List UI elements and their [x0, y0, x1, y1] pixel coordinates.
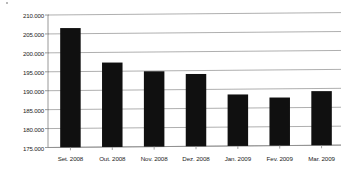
x-axis-label: Set. 2008 [50, 155, 92, 163]
y-axis-label: 185.000 [0, 106, 44, 113]
y-axis-label: 195.000 [0, 68, 44, 75]
x-axis-label: Fev. 2009 [259, 155, 301, 163]
bar [269, 98, 290, 146]
x-axis-label: Mar. 2009 [301, 155, 343, 163]
x-axis-label: Nov. 2008 [133, 155, 175, 163]
bar [60, 28, 81, 147]
gridline [48, 13, 341, 15]
y-axis-label: 210.000 [0, 12, 44, 19]
bar [102, 63, 123, 147]
bar [186, 74, 207, 146]
y-axis-label: 175.000 [0, 144, 44, 151]
x-axis-category-labels: Set. 2008Out. 2008Nov. 2008Dez. 2008Jan.… [48, 155, 347, 171]
y-axis-label: 180.000 [0, 125, 44, 132]
bar-chart: 175.000180.000185.000190.000195.000200.0… [0, 0, 347, 179]
gridline [48, 32, 341, 34]
y-axis-tick-labels: 175.000180.000185.000190.000195.000200.0… [0, 0, 44, 179]
x-axis-label: Out. 2008 [91, 155, 133, 163]
bar [311, 91, 332, 145]
x-axis-label: Dez. 2008 [175, 155, 217, 163]
bar [228, 94, 249, 145]
plot-area [48, 0, 347, 179]
y-axis-label: 190.000 [0, 87, 44, 94]
bar [144, 71, 165, 146]
gridline [48, 50, 341, 52]
x-axis-label: Jan. 2009 [217, 155, 259, 163]
plot-svg [48, 0, 347, 179]
y-axis-label: 200.000 [0, 49, 44, 56]
y-axis-label: 205.000 [0, 30, 44, 37]
gridline [48, 69, 341, 71]
